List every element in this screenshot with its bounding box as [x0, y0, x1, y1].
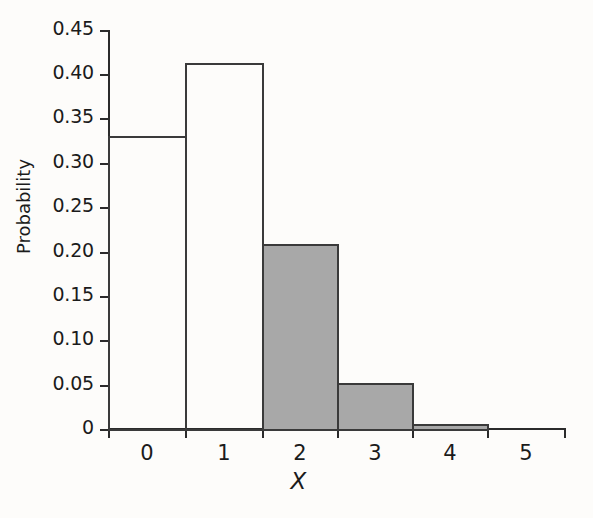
y-tick-label-0.40: 0.40 — [32, 61, 94, 83]
bar-x-0 — [108, 136, 187, 431]
x-tick-label-0: 0 — [117, 441, 177, 465]
y-tick-label-0.05: 0.05 — [32, 372, 94, 394]
y-axis-title: Probability — [13, 132, 34, 282]
bar-x-3 — [337, 383, 414, 431]
x-tick-edge-6 — [564, 428, 566, 438]
y-tick-label-0.20: 0.20 — [32, 239, 94, 261]
x-tick-label-3: 3 — [345, 441, 405, 465]
y-tick-0.40 — [100, 74, 109, 76]
y-tick-label-0: 0 — [32, 416, 94, 438]
bar-x-1 — [185, 63, 264, 431]
y-tick-label-0.15: 0.15 — [32, 283, 94, 305]
x-tick-label-2: 2 — [270, 441, 330, 465]
y-tick-label-0.10: 0.10 — [32, 327, 94, 349]
x-axis-title-text: X — [291, 468, 307, 494]
y-tick-label-0.30: 0.30 — [32, 150, 94, 172]
x-tick-label-5: 5 — [496, 441, 556, 465]
y-tick-0.45 — [100, 30, 109, 32]
probability-histogram-figure: 0 0.05 0.10 0.15 0.20 0.25 0.30 0.35 0.4… — [0, 0, 593, 518]
y-tick-label-0.35: 0.35 — [32, 105, 94, 127]
x-tick-label-1: 1 — [194, 441, 254, 465]
bar-x-2 — [262, 244, 339, 431]
bar-x-4 — [412, 424, 489, 431]
y-tick-label-0.25: 0.25 — [32, 194, 94, 216]
y-tick-0.35 — [100, 118, 109, 120]
x-tick-label-4: 4 — [420, 441, 480, 465]
x-axis-title: X — [0, 468, 593, 494]
y-tick-label-0.45: 0.45 — [32, 17, 94, 39]
